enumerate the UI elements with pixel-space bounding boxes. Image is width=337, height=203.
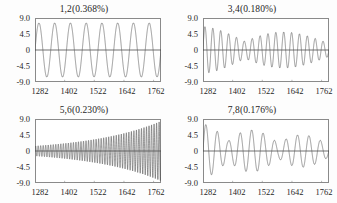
x-tick-label: 1402 [61, 86, 78, 96]
x-tick-label: 1762 [316, 86, 333, 96]
plot-area [35, 18, 161, 82]
x-tick-label: 1642 [119, 86, 136, 96]
y-tick-label: 0 [26, 147, 30, 156]
x-tick-label: 1402 [61, 187, 78, 197]
y-tick-label: 0 [194, 46, 198, 55]
y-tick-label: 4.5 [19, 30, 30, 39]
x-tick-label: 1642 [119, 187, 136, 197]
y-tick-label: -4.5 [185, 62, 198, 71]
x-tick-label: 1282 [32, 86, 49, 96]
y-tick-label: 9.0 [187, 14, 198, 23]
y-axis-labels: 9.0 4.5 0 -4.5 -9.0 [0, 14, 32, 86]
plot-area [35, 119, 161, 183]
y-tick-label: -4.5 [17, 62, 30, 71]
multi-panel-oscillation-figure: 1,2(0.368%) 9.0 4.5 0 -4.5 -9.0 1282 140… [0, 0, 337, 203]
waveform-svg [35, 119, 161, 183]
y-tick-label: 4.5 [19, 131, 30, 140]
y-tick-label: 4.5 [187, 131, 198, 140]
y-axis-labels: 9.0 4.5 0 -4.5 -9.0 [168, 14, 200, 86]
x-axis-labels: 1282 1402 1522 1642 1762 [35, 185, 161, 199]
waveform-svg [203, 18, 329, 82]
plot-area [203, 18, 329, 82]
y-tick-label: 0 [26, 46, 30, 55]
x-tick-label: 1402 [229, 187, 246, 197]
y-tick-label: -4.5 [185, 163, 198, 172]
y-tick-label: 9.0 [19, 14, 30, 23]
y-tick-label: 0 [194, 147, 198, 156]
x-tick-label: 1762 [148, 86, 165, 96]
x-tick-label: 1522 [258, 86, 275, 96]
x-tick-label: 1762 [148, 187, 165, 197]
x-tick-label: 1642 [287, 187, 304, 197]
y-axis-labels: 9.0 4.5 0 -4.5 -9.0 [168, 115, 200, 187]
x-tick-label: 1402 [229, 86, 246, 96]
y-tick-label: -9.0 [185, 78, 198, 87]
x-tick-label: 1282 [200, 86, 217, 96]
y-tick-label: 4.5 [187, 30, 198, 39]
x-tick-label: 1522 [258, 187, 275, 197]
y-tick-label: 9.0 [19, 115, 30, 124]
y-tick-label: -9.0 [17, 179, 30, 188]
waveform-svg [203, 119, 329, 183]
x-tick-label: 1522 [90, 187, 107, 197]
y-tick-label: -9.0 [17, 78, 30, 87]
panel-7-8: 7,8(0.176%) 9.0 4.5 0 -4.5 -9.0 1282 140… [168, 101, 336, 202]
panel-5-6: 5,6(0.230%) 9.0 4.5 0 -4.5 -9.0 1282 140… [0, 101, 168, 202]
panel-3-4: 3,4(0.180%) 9.0 4.5 0 -4.5 -9.0 1282 140… [168, 0, 336, 101]
x-tick-label: 1282 [200, 187, 217, 197]
x-axis-labels: 1282 1402 1522 1642 1762 [203, 84, 329, 98]
plot-area [203, 119, 329, 183]
y-tick-label: 9.0 [187, 115, 198, 124]
x-tick-label: 1522 [90, 86, 107, 96]
x-tick-label: 1282 [32, 187, 49, 197]
y-tick-label: -9.0 [185, 179, 198, 188]
y-axis-labels: 9.0 4.5 0 -4.5 -9.0 [0, 115, 32, 187]
x-axis-labels: 1282 1402 1522 1642 1762 [203, 185, 329, 199]
y-tick-label: -4.5 [17, 163, 30, 172]
x-axis-labels: 1282 1402 1522 1642 1762 [35, 84, 161, 98]
waveform-svg [35, 18, 161, 82]
x-tick-label: 1762 [316, 187, 333, 197]
x-tick-label: 1642 [287, 86, 304, 96]
panel-1-2: 1,2(0.368%) 9.0 4.5 0 -4.5 -9.0 1282 140… [0, 0, 168, 101]
